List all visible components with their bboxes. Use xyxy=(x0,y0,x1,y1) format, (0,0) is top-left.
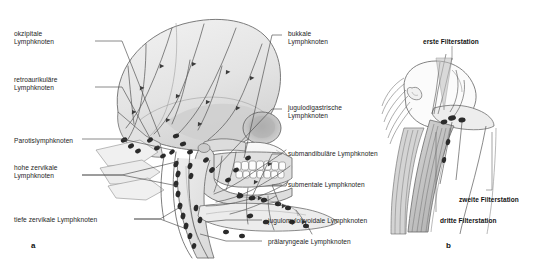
label-erste-filterstation: erste Filterstation xyxy=(423,38,479,46)
panel-b-artwork xyxy=(382,46,496,234)
anatomy-figure: okzipitale Lymphknoten retroaurikuläre L… xyxy=(0,0,543,261)
panel-mark-a: a xyxy=(31,241,35,250)
label-jugulodigastrische-lymphknoten: jugulodigastrische Lymphknoten xyxy=(288,104,342,120)
label-jugulomylohyoidale-lymphknoten: jugulomylohyoidale Lymphknoten xyxy=(268,217,367,225)
label-praelaryngeale-lymphknoten: prälaryngeale Lymphknoten xyxy=(268,238,351,246)
label-tiefe-zervikale-lymphknoten: tiefe zervikale Lymphknoten xyxy=(14,216,97,224)
label-zweite-filterstation: zweite Filterstation xyxy=(459,196,519,204)
upper-teeth xyxy=(234,161,286,170)
label-hohe-zervikale-lymphknoten: hohe zervikale Lymphknoten xyxy=(14,164,57,180)
label-bukkale-lymphknoten: bukkale Lymphknoten xyxy=(288,30,328,46)
label-submandibulaere-lymphknoten: submandibuläre Lymphknoten xyxy=(288,150,378,158)
label-parotislymphknoten: Parotislymphknoten xyxy=(14,137,73,145)
lower-teeth xyxy=(236,171,284,179)
label-dritte-filterstation: dritte Filterstation xyxy=(440,217,497,225)
label-okzipitale-lymphknoten: okzipitale Lymphknoten xyxy=(14,30,54,46)
panel-mark-b: b xyxy=(446,241,451,250)
label-retroaurikulaere-lymphknoten: retroaurikuläre Lymphknoten xyxy=(14,76,58,92)
label-submentale-lymphknoten: submentale Lymphknoten xyxy=(288,181,365,189)
